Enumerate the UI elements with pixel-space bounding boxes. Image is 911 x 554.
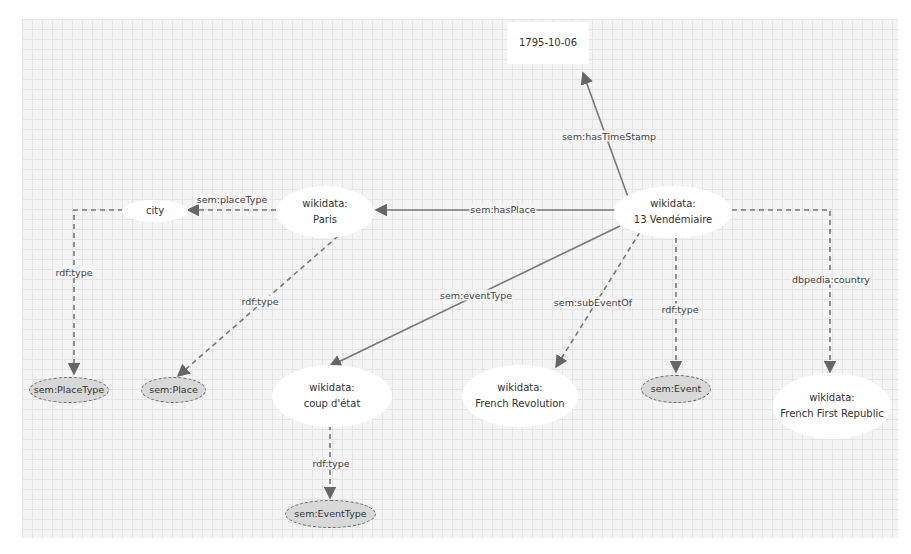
node-sem-eventtype[interactable]: sem:EventType: [285, 500, 376, 528]
node-prefix: wikidata:: [650, 196, 695, 212]
edge-label-country: dbpedia:country: [791, 274, 871, 285]
node-name: French First Republic: [780, 406, 883, 422]
node-label: sem:Event: [651, 381, 701, 397]
node-prefix: wikidata:: [497, 380, 542, 396]
node-sem-event[interactable]: sem:Event: [641, 375, 711, 403]
edge-label-has-place: sem:hasPlace: [469, 204, 536, 215]
node-name: French Revolution: [475, 396, 564, 412]
node-city-label: city: [146, 203, 164, 219]
edge-label-place-type: sem:placeType: [196, 194, 269, 205]
node-label: sem:EventType: [294, 506, 366, 522]
node-label: sem:Place: [149, 382, 198, 398]
node-timestamp-label: 1795-10-06: [519, 35, 577, 51]
node-13-vendemiaire[interactable]: wikidata: 13 Vendémiaire: [614, 186, 732, 238]
edges-layer: [0, 0, 911, 554]
node-name: 13 Vendémiaire: [634, 212, 712, 228]
node-sem-place[interactable]: sem:Place: [141, 377, 206, 403]
node-coup-d-etat[interactable]: wikidata: coup d'état: [272, 365, 392, 427]
node-prefix: wikidata:: [309, 380, 354, 396]
node-paris[interactable]: wikidata: Paris: [276, 186, 374, 238]
node-prefix: wikidata:: [302, 196, 347, 212]
node-label: sem:PlaceType: [34, 382, 104, 398]
edge-label-event-type: sem:eventType: [439, 290, 513, 301]
edge-city-rdf-type: [74, 210, 123, 374]
edge-label-event-rdf-type: rdf:type: [660, 304, 699, 315]
edge-label-city-rdf-type: rdf:type: [54, 267, 93, 278]
node-name: Paris: [313, 212, 337, 228]
edge-label-has-timestamp: sem:hasTimeStamp: [561, 131, 657, 142]
node-name: coup d'état: [304, 396, 361, 412]
node-french-revolution[interactable]: wikidata: French Revolution: [462, 365, 578, 427]
edge-label-coup-rdf-type: rdf:type: [311, 458, 350, 469]
node-prefix: wikidata:: [809, 390, 854, 406]
node-city[interactable]: city: [122, 200, 188, 222]
edge-country: [732, 210, 830, 372]
edge-label-sub-event-of: sem:subEventOf: [553, 297, 633, 308]
node-timestamp[interactable]: 1795-10-06: [507, 22, 589, 64]
node-french-first-republic[interactable]: wikidata: French First Republic: [773, 373, 891, 439]
node-sem-placetype[interactable]: sem:PlaceType: [29, 377, 109, 403]
edge-label-paris-rdf-type: rdf:type: [240, 296, 279, 307]
